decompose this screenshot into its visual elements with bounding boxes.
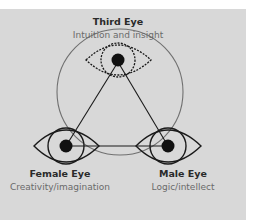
third-eye-pupil [112,54,125,67]
female-eye-pupil [60,140,73,153]
female-eye-title: Female Eye [30,168,91,179]
female-eye-subtitle: Creativity/imagination [10,182,110,192]
third-eye-title: Third Eye [93,16,143,27]
male-eye-subtitle: Logic/intellect [152,182,215,192]
connecting-circle [57,29,183,155]
third-eye-subtitle: Intuition and insight [73,30,163,40]
male-eye-title: Male Eye [159,168,207,179]
male-eye-pupil [162,140,175,153]
